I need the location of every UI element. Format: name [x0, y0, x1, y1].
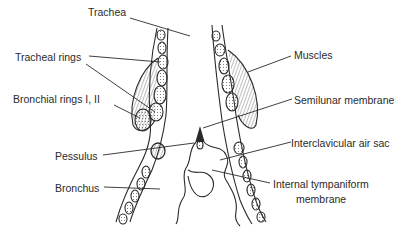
label-pessulus: Pessulus	[55, 150, 98, 162]
membranes	[176, 128, 240, 226]
label-interclavicular-air-sac: Interclavicular air sac	[291, 137, 390, 149]
label-semilunar-membrane: Semilunar membrane	[294, 94, 394, 106]
left-tracheal-wall	[116, 28, 168, 224]
syrinx-diagram: Trachea Tracheal rings Bronchial rings I…	[0, 0, 413, 228]
label-internal-tympaniform-line1: Internal tympaniform	[273, 178, 369, 190]
label-muscles: Muscles	[294, 49, 333, 61]
label-bronchus: Bronchus	[55, 182, 99, 194]
right-tracheal-wall	[212, 25, 266, 224]
label-bronchial-rings: Bronchial rings I, II	[13, 93, 100, 105]
label-tracheal-rings: Tracheal rings	[15, 51, 81, 63]
label-trachea: Trachea	[88, 6, 126, 18]
leader-lines	[86, 18, 292, 189]
label-internal-tympaniform-line2: membrane	[296, 193, 346, 205]
